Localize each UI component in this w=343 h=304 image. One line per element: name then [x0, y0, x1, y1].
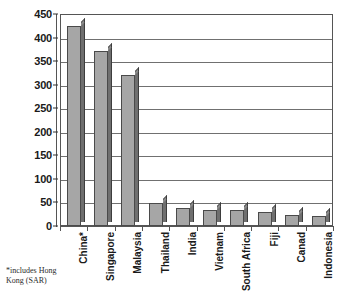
bar-side-face [108, 47, 112, 222]
x-tick-mark [169, 226, 170, 231]
bar-front-face [121, 75, 135, 226]
x-tick-label-text: Canad [297, 232, 307, 263]
bar-side-face [135, 71, 139, 222]
bars-layer [60, 14, 333, 226]
x-tick-mark [115, 226, 116, 231]
x-tick-mark [224, 226, 225, 231]
x-tick-label: China* [74, 232, 84, 264]
x-tick-mark [142, 226, 143, 231]
y-tick-mark [53, 178, 58, 179]
y-tick-mark [53, 155, 58, 156]
bar [67, 26, 81, 226]
bar [176, 208, 190, 226]
bar [258, 212, 272, 226]
footnote-line-1: *includes Hong [6, 266, 68, 276]
x-tick-mark [333, 226, 334, 231]
x-tick-mark [60, 226, 61, 231]
x-tick-label-text: Fiji [270, 232, 280, 246]
bar-chart: 450400350300250200150100500 China*Singap… [0, 0, 343, 304]
bar [203, 210, 217, 226]
x-tick-label-text: India [188, 232, 198, 255]
x-tick-label: Thailand [156, 232, 166, 273]
footnote-line-2: Kong (SAR) [6, 276, 68, 286]
x-tick-label-text: Malaysia [133, 232, 143, 274]
x-tick-mark [197, 226, 198, 231]
x-tick-label: South Africa [237, 232, 247, 291]
y-tick-label: 200 [0, 126, 52, 137]
x-tick-label: India [183, 232, 193, 255]
bar-front-face [230, 210, 244, 226]
x-tick-mark [87, 226, 88, 231]
x-tick-label-text: Thailand [161, 232, 171, 273]
x-tick-label: Canad [292, 232, 302, 263]
y-tick-label: 400 [0, 32, 52, 43]
y-tick-mark [53, 61, 58, 62]
x-tick-label-text: Vietnam [215, 232, 225, 271]
x-tick-mark [251, 226, 252, 231]
y-tick-label: 100 [0, 173, 52, 184]
x-tick-label-text: Indonesia [324, 232, 334, 279]
y-tick-label: 350 [0, 56, 52, 67]
y-tick-mark [53, 14, 58, 15]
bar-front-face [94, 51, 108, 226]
x-tick-label: Vietnam [210, 232, 220, 271]
y-axis: 450400350300250200150100500 [0, 0, 52, 304]
y-tick-label: 450 [0, 9, 52, 20]
bar-front-face [176, 208, 190, 226]
x-tick-label: Malaysia [128, 232, 138, 274]
chart-footnote: *includes Hong Kong (SAR) [6, 266, 68, 286]
bar [230, 210, 244, 226]
x-tick-mark [306, 226, 307, 231]
x-tick-label: Singapore [101, 232, 111, 281]
bar [312, 216, 326, 226]
y-tick-label: 300 [0, 79, 52, 90]
y-tick-mark [53, 226, 58, 227]
x-tick-label-text: Singapore [106, 232, 116, 281]
bar-side-face [81, 22, 85, 222]
bar [285, 215, 299, 226]
bar-front-face [203, 210, 217, 226]
bar-front-face [312, 216, 326, 226]
y-tick-label: 150 [0, 150, 52, 161]
y-tick-mark [53, 37, 58, 38]
y-tick-mark [53, 131, 58, 132]
x-tick-label-text: South Africa [242, 232, 252, 291]
bar [149, 203, 163, 226]
bar-front-face [67, 26, 81, 226]
bar [121, 75, 135, 226]
x-axis-labels: China*SingaporeMalaysiaThailandIndiaViet… [60, 232, 334, 304]
y-tick-label: 250 [0, 103, 52, 114]
bar-front-face [285, 215, 299, 226]
bar-front-face [258, 212, 272, 226]
x-tick-label: Fiji [265, 232, 275, 246]
bar-front-face [149, 203, 163, 226]
y-tick-mark [53, 202, 58, 203]
x-tick-label: Indonesia [319, 232, 329, 279]
x-tick-mark [278, 226, 279, 231]
bar [94, 51, 108, 226]
y-tick-label: 50 [0, 197, 52, 208]
y-tick-mark [53, 84, 58, 85]
x-tick-label-text: China* [79, 232, 89, 264]
y-tick-mark [53, 108, 58, 109]
y-tick-label: 0 [0, 221, 52, 232]
